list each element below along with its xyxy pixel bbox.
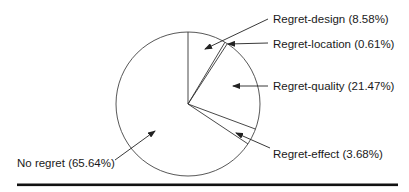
label-no-regret: No regret (65.64%) <box>17 157 115 169</box>
bottom-rule <box>17 184 398 187</box>
arrow-location <box>228 43 268 44</box>
label-regret-quality: Regret-quality (21.47%) <box>273 80 395 92</box>
label-regret-location: Regret-location (0.61%) <box>273 38 395 50</box>
label-regret-effect: Regret-effect (3.68%) <box>273 148 383 160</box>
arrow-design <box>205 19 268 49</box>
label-regret-design: Regret-design (8.58%) <box>273 13 389 25</box>
pie-chart: Regret-design (8.58%) Regret-location (0… <box>0 0 409 192</box>
